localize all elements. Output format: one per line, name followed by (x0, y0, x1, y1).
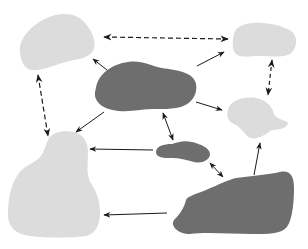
edge-bottom-right-mid-right (254, 143, 260, 175)
edge-center-top-right (197, 52, 224, 66)
edge-small-center-bottom-right (210, 163, 223, 177)
edge-top-left-top-right (104, 37, 228, 39)
edge-center-small-center (163, 113, 173, 140)
edge-small-center-bottom-left (90, 149, 153, 150)
edge-center-top-left (93, 59, 107, 70)
edge-bottom-right-bottom-left (104, 213, 167, 215)
blob-network-diagram (0, 0, 308, 249)
edge-top-right-mid-right (268, 60, 272, 95)
node-top-right (233, 23, 296, 57)
node-bottom-left (8, 131, 100, 237)
node-mid-right (227, 98, 288, 139)
node-bottom-right (173, 172, 294, 234)
node-small-center (156, 141, 210, 162)
node-center (95, 62, 196, 112)
diagram-canvas (0, 0, 308, 249)
node-top-left (20, 14, 95, 70)
edge-top-left-bottom-left (38, 75, 48, 136)
edge-center-bottom-left (76, 112, 104, 132)
edge-center-mid-right (196, 102, 222, 110)
